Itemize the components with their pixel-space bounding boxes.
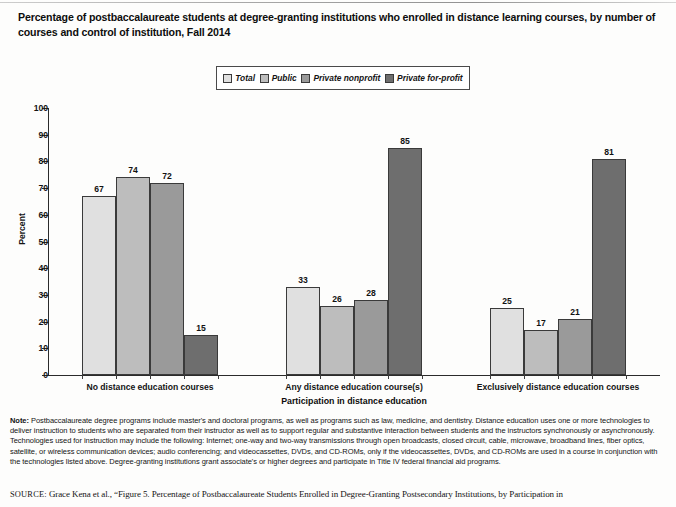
x-tick-mark [184, 375, 185, 379]
bar-value-label: 72 [162, 171, 172, 181]
y-tick-label: 70 [24, 183, 48, 193]
bar-value-label: 33 [298, 275, 308, 285]
y-tick-label: 90 [24, 130, 48, 140]
bar: 81 [592, 159, 626, 375]
y-tick-row: 100 [0, 108, 48, 109]
figure-page: Percentage of postbaccalaureate students… [0, 0, 676, 507]
y-tick-row: 40 [0, 268, 48, 269]
y-tick-row: 0 [0, 375, 48, 376]
y-tick-label: 0 [24, 370, 48, 380]
x-group-label: Exclusively distance education courses [456, 382, 660, 392]
x-tick-mark [626, 375, 627, 379]
x-tick-mark [150, 375, 151, 379]
x-axis-title: Participation in distance education [48, 396, 660, 406]
x-tick-mark [354, 375, 355, 379]
bar: 26 [320, 306, 354, 375]
note-text: Postbaccalaureate degree programs includ… [10, 416, 657, 466]
figure-source-clip: SOURCE: Grace Kena et al., “Figure 5. Pe… [0, 487, 676, 507]
y-axis-title: Percent [17, 199, 27, 259]
bar-group: 33262885 [286, 108, 422, 375]
y-tick-row: 90 [0, 135, 48, 136]
x-tick-mark [422, 375, 423, 379]
y-tick-label: 60 [24, 210, 48, 220]
bar-value-label: 85 [400, 136, 410, 146]
y-tick-label: 20 [24, 317, 48, 327]
x-tick-mark [388, 375, 389, 379]
bar-value-label: 28 [366, 288, 376, 298]
source-label: SOURCE: [10, 490, 47, 499]
y-tick-row: 20 [0, 322, 48, 323]
bar-value-label: 15 [196, 323, 206, 333]
y-tick-row: 80 [0, 161, 48, 162]
note-label: Note: [10, 416, 29, 425]
x-tick-mark [116, 375, 117, 379]
bar: 67 [82, 196, 116, 375]
bar: 85 [388, 148, 422, 375]
x-tick-mark [524, 375, 525, 379]
bar: 28 [354, 300, 388, 375]
x-tick-mark [558, 375, 559, 379]
bar-value-label: 25 [502, 296, 512, 306]
y-tick-row: 30 [0, 295, 48, 296]
bar: 33 [286, 287, 320, 375]
bar: 17 [524, 330, 558, 375]
figure-note: Note: Postbaccalaureate degree programs … [10, 416, 668, 467]
bar-value-label: 21 [570, 307, 580, 317]
bar-value-label: 17 [536, 318, 546, 328]
x-group-label: No distance education courses [48, 382, 252, 392]
bar: 74 [116, 177, 150, 375]
y-tick-label: 80 [24, 156, 48, 166]
y-tick-row: 70 [0, 188, 48, 189]
x-tick-mark [218, 375, 219, 379]
y-tick-label: 10 [24, 343, 48, 353]
bar: 21 [558, 319, 592, 375]
x-tick-mark [320, 375, 321, 379]
bar-value-label: 26 [332, 294, 342, 304]
y-tick-label: 50 [24, 237, 48, 247]
bar-value-label: 67 [94, 184, 104, 194]
x-group-label: Any distance education course(s) [252, 382, 456, 392]
plot-area: 1009080706050403020100 Percent 677472153… [0, 0, 676, 400]
bars-layer: 677472153326288525172181 [48, 108, 660, 375]
bar: 72 [150, 183, 184, 375]
bar-group: 67747215 [82, 108, 218, 375]
x-tick-mark [490, 375, 491, 379]
source-text: Grace Kena et al., “Figure 5. Percentage… [47, 489, 563, 499]
bar-group: 25172181 [490, 108, 626, 375]
bar: 15 [184, 335, 218, 375]
y-tick-row: 10 [0, 348, 48, 349]
bar-value-label: 81 [604, 147, 614, 157]
y-tick-label: 100 [24, 103, 48, 113]
bar-value-label: 74 [128, 165, 138, 175]
x-tick-mark [286, 375, 287, 379]
figure-source: SOURCE: Grace Kena et al., “Figure 5. Pe… [10, 489, 674, 500]
bar: 25 [490, 308, 524, 375]
y-tick-label: 30 [24, 290, 48, 300]
y-tick-label: 40 [24, 263, 48, 273]
x-tick-mark [82, 375, 83, 379]
x-tick-mark [592, 375, 593, 379]
